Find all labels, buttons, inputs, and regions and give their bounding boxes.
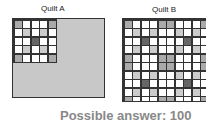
quilt-square: [49, 21, 56, 28]
quilt-square: [176, 38, 183, 45]
quilt-square: [125, 55, 132, 62]
quilt-square: [193, 55, 200, 62]
quilt-square: [32, 29, 39, 36]
quilt-square: [176, 97, 183, 102]
quilt-square: [32, 55, 39, 62]
quilt-square: [201, 38, 206, 45]
quilt-square: [176, 29, 183, 36]
quilt-square: [159, 55, 166, 62]
quilt-square: [150, 97, 157, 102]
quilt-square: [184, 46, 191, 53]
quilt-b-title: Quilt B: [152, 5, 176, 14]
quilt-square: [167, 89, 174, 96]
quilt-square: [40, 21, 47, 28]
quilt-square: [150, 46, 157, 53]
quilt-square: [193, 72, 200, 79]
quilt-square: [184, 72, 191, 79]
quilt-square: [159, 38, 166, 45]
quilt-square: [167, 46, 174, 53]
quilt-square: [167, 29, 174, 36]
quilt-square: [193, 46, 200, 53]
quilt-square: [15, 38, 22, 45]
quilt-square: [32, 38, 39, 45]
quilt-square: [49, 38, 56, 45]
quilt-square: [125, 63, 132, 70]
quilt-a-title: Quilt A: [41, 4, 65, 13]
quilt-square: [40, 46, 47, 53]
quilt-square: [159, 72, 166, 79]
quilt-square: [133, 55, 140, 62]
quilt-square: [184, 97, 191, 102]
quilt-square: [40, 29, 47, 36]
quilt-square: [49, 46, 56, 53]
quilt-square: [193, 80, 200, 87]
quilt-square: [201, 72, 206, 79]
quilt-square: [184, 29, 191, 36]
quilt-square: [133, 29, 140, 36]
quilt-square: [193, 29, 200, 36]
quilt-square: [201, 21, 206, 28]
quilt-square: [201, 80, 206, 87]
quilt-square: [23, 21, 30, 28]
quilt-square: [23, 29, 30, 36]
quilt-square: [167, 72, 174, 79]
quilt-square: [142, 97, 149, 102]
quilt-square: [176, 89, 183, 96]
quilt-square: [23, 38, 30, 45]
quilt-square: [15, 21, 22, 28]
quilt-square: [176, 55, 183, 62]
quilt-square: [176, 80, 183, 87]
quilt-square: [201, 89, 206, 96]
quilt-square: [184, 89, 191, 96]
quilt-square: [150, 55, 157, 62]
quilt-square: [133, 72, 140, 79]
quilt-a: [12, 18, 105, 98]
quilt-a-pattern-grid: [13, 19, 57, 63]
quilt-square: [176, 63, 183, 70]
quilt-square: [167, 21, 174, 28]
quilt-square: [142, 21, 149, 28]
quilt-square: [201, 46, 206, 53]
quilt-square: [32, 46, 39, 53]
quilt-square: [49, 55, 56, 62]
quilt-square: [15, 55, 22, 62]
quilt-square: [142, 72, 149, 79]
quilt-square: [150, 21, 157, 28]
quilt-square: [184, 80, 191, 87]
quilt-square: [142, 89, 149, 96]
quilt-square: [32, 21, 39, 28]
quilt-square: [184, 55, 191, 62]
quilt-square: [167, 97, 174, 102]
quilt-square: [193, 89, 200, 96]
quilt-square: [40, 38, 47, 45]
quilt-b-pattern-grid: [123, 19, 206, 102]
quilt-square: [184, 63, 191, 70]
quilt-square: [133, 63, 140, 70]
quilt-square: [159, 29, 166, 36]
quilt-square: [23, 55, 30, 62]
quilt-square: [176, 72, 183, 79]
quilt-square: [125, 89, 132, 96]
quilt-square: [201, 63, 206, 70]
quilt-square: [193, 38, 200, 45]
quilt-square: [133, 21, 140, 28]
quilt-square: [167, 38, 174, 45]
quilt-square: [159, 21, 166, 28]
quilt-square: [125, 80, 132, 87]
quilt-square: [133, 38, 140, 45]
quilt-square: [167, 55, 174, 62]
quilt-square: [150, 89, 157, 96]
quilt-square: [193, 97, 200, 102]
quilt-square: [184, 38, 191, 45]
quilt-square: [193, 21, 200, 28]
quilt-square: [133, 46, 140, 53]
quilt-square: [125, 97, 132, 102]
quilt-square: [150, 63, 157, 70]
quilt-square: [201, 29, 206, 36]
quilt-square: [142, 46, 149, 53]
quilt-square: [159, 63, 166, 70]
quilt-square: [193, 63, 200, 70]
quilt-square: [150, 72, 157, 79]
quilt-square: [125, 72, 132, 79]
quilt-square: [142, 55, 149, 62]
